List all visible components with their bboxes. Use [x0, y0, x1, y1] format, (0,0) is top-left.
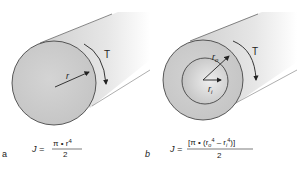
panel-label-a: a: [2, 149, 7, 159]
formula-b: b J = [π • (ro4 – ri4)] 2: [145, 137, 253, 160]
formula-b-denominator: 2: [217, 151, 222, 160]
formula-b-lhs: J =: [169, 144, 182, 154]
panel-label-b: b: [145, 149, 150, 159]
torque-label-a: T: [104, 49, 110, 60]
formula-a-lhs: J =: [31, 144, 44, 154]
torque-label-b: T: [252, 46, 258, 57]
formula-a-numerator: π • r4: [53, 138, 72, 148]
torsion-diagram: r T ro ri T a J = π • r4 2: [0, 0, 297, 169]
shaft-face-a: [12, 41, 96, 125]
formula-a-denominator: 2: [63, 150, 68, 159]
panel-a-solid-shaft: r T: [12, 12, 150, 125]
shaft-inner-bore-b: [182, 58, 228, 104]
formula-a: a J = π • r4 2: [2, 138, 82, 159]
formula-b-numerator: [π • (ro4 – ri4)]: [188, 137, 235, 148]
panel-b-hollow-shaft: ro ri T: [163, 12, 297, 120]
